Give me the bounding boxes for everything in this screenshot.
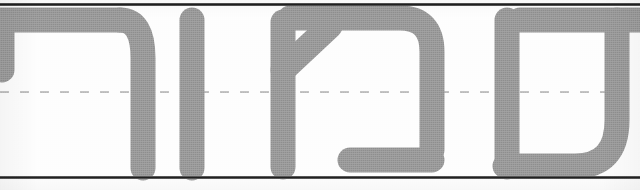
- top-ruled-line: [0, 3, 640, 6]
- handwriting-practice-strip: Hebrew letters on a ruled practice line …: [0, 0, 640, 190]
- bottom-ruled-line: [0, 176, 640, 179]
- hebrew-letter-tav: [505, 20, 640, 167]
- hebrew-text-line: [0, 0, 640, 190]
- hebrew-letter-nun: [283, 18, 432, 167]
- hebrew-letter-het: [0, 20, 143, 168]
